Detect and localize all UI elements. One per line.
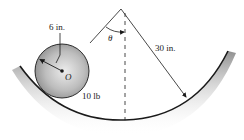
- angle-reference-line: [90, 9, 121, 43]
- center-label: O: [65, 72, 72, 82]
- track-radius-arrow: [121, 9, 186, 97]
- ball-radius-label: 6 in.: [49, 22, 65, 32]
- theta-label: θ: [108, 33, 113, 43]
- weight-label: 10 lb: [82, 91, 101, 101]
- track-radius-label: 30 in.: [155, 43, 176, 53]
- circular-track-diagram: 6 in. O 10 lb θ 30 in.: [0, 0, 244, 140]
- theta-angle-arc: [106, 27, 124, 32]
